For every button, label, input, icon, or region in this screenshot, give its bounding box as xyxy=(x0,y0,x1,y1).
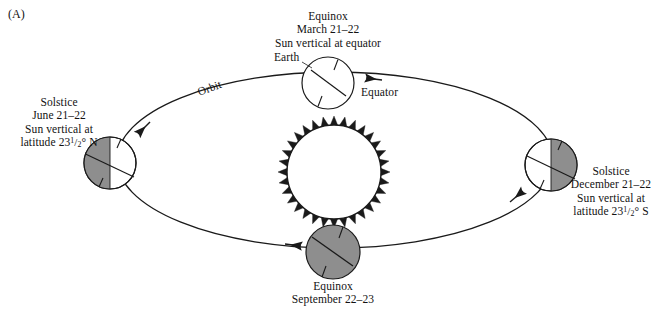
label-june-lat-prefix: latitude 23 xyxy=(20,136,70,148)
label-june-line4: latitude 231/2° N xyxy=(0,136,118,149)
label-march-equinox: Equinox March 21–22 Sun vertical at equa… xyxy=(0,10,656,50)
sun-ray xyxy=(380,168,390,176)
label-december-lat-fraction: 1/2 xyxy=(623,205,634,218)
label-march-line3: Sun vertical at equator xyxy=(0,37,656,50)
label-september-line2: September 22–23 xyxy=(253,293,413,306)
label-june-lat-fraction: 1/2 xyxy=(70,136,81,149)
sun xyxy=(278,116,390,228)
label-march-line1: Equinox xyxy=(0,10,656,23)
label-june-line1: Solstice xyxy=(0,96,118,109)
label-june-lat-suffix: ° N xyxy=(82,136,98,148)
label-december-line1: Solstice xyxy=(552,165,670,178)
label-september-equinox: Equinox September 22–23 xyxy=(253,280,413,307)
orbit-arrow-to-march xyxy=(366,78,382,80)
earth-march-equinox xyxy=(302,57,354,109)
label-december-line4: latitude 231/2° S xyxy=(552,205,670,218)
label-june-solstice: Solstice June 21–22 Sun vertical at lati… xyxy=(0,96,118,150)
orbit-arrow-to-december xyxy=(510,191,523,202)
label-december-solstice: Solstice December 21–22 Sun vertical at … xyxy=(552,165,670,219)
label-equator-callout: Equator xyxy=(361,86,398,99)
label-december-lat-prefix: latitude 23 xyxy=(573,205,623,217)
label-june-line2: June 21–22 xyxy=(0,109,118,122)
label-september-line1: Equinox xyxy=(253,280,413,293)
label-earth-callout: Earth xyxy=(274,51,299,64)
sun-ray xyxy=(278,168,288,176)
label-june-line3: Sun vertical at xyxy=(0,123,118,136)
label-december-line3: Sun vertical at xyxy=(552,192,670,205)
earth-september-equinox xyxy=(306,225,360,279)
label-june-lat-den: 2 xyxy=(78,140,82,149)
orbit-arrow-to-june xyxy=(138,122,150,134)
label-december-lat-den: 2 xyxy=(630,209,634,218)
label-december-lat-suffix: ° S xyxy=(634,205,648,217)
seasons-orbit-figure: (A) xyxy=(0,0,670,311)
label-march-line2: March 21–22 xyxy=(0,23,656,36)
sun-ray xyxy=(330,116,338,126)
sun-disc xyxy=(287,125,381,219)
label-december-line2: December 21–22 xyxy=(552,178,670,191)
